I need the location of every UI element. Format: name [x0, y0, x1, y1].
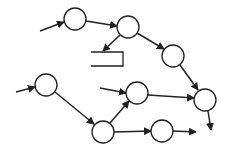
edge-arrow-G-D [148, 95, 194, 98]
edge-arrow-D-out2 [208, 111, 211, 130]
edge-arrow-in1-out [40, 22, 64, 31]
edge-arrow-F-G [110, 101, 129, 123]
node-D [194, 89, 216, 111]
edge-arrow-F-H [114, 131, 151, 132]
edge-arrow-A-B [86, 21, 117, 26]
node-H [151, 120, 173, 142]
node-B [117, 16, 139, 38]
open-rectangle-shape [91, 52, 123, 66]
edge-arrow-E-F [55, 92, 94, 124]
edge-arrow-B-rect [103, 35, 120, 51]
open-rectangle [91, 52, 123, 66]
nodes [35, 8, 216, 143]
node-G [126, 82, 148, 104]
edge-arrow-in3-out [100, 88, 126, 93]
node-A [64, 8, 86, 30]
node-E [35, 74, 57, 96]
edge-arrow-B-C [137, 33, 164, 49]
edge-arrow-H-out1 [173, 131, 196, 132]
node-C [162, 45, 184, 67]
directed-graph-diagram [0, 0, 229, 154]
edge-arrow-C-D [180, 65, 198, 90]
edge-arrow-in2-out [16, 87, 35, 92]
node-F [92, 121, 114, 143]
